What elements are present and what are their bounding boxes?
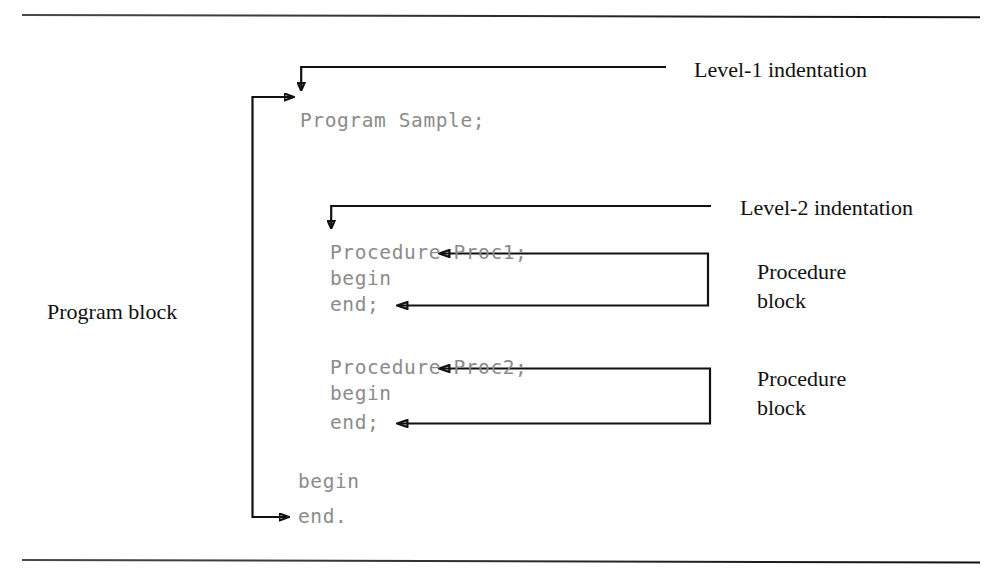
program-block-bracket bbox=[253, 97, 294, 517]
code-line-proc2-end: end; bbox=[330, 413, 379, 433]
code-line-procedure-proc1: Procedure Proc1; bbox=[330, 243, 527, 263]
code-line-program-sample: Program Sample; bbox=[300, 111, 485, 131]
label-procedure-block-2-line2: block bbox=[757, 395, 806, 421]
code-line-procedure-proc2: Procedure Proc2; bbox=[330, 358, 527, 378]
figure-canvas: Program Sample; Procedure Proc1; begin e… bbox=[0, 0, 999, 573]
code-line-proc1-end: end; bbox=[330, 295, 379, 315]
label-procedure-block-1-line1: Procedure bbox=[757, 259, 846, 285]
page-rule-bottom bbox=[22, 559, 980, 564]
code-line-program-begin: begin bbox=[298, 472, 360, 492]
label-program-block: Program block bbox=[47, 299, 177, 325]
code-line-program-end: end. bbox=[298, 507, 347, 527]
label-level2-indentation: Level-2 indentation bbox=[740, 195, 913, 221]
label-procedure-block-2-line1: Procedure bbox=[757, 366, 846, 392]
level2-indentation-arrow bbox=[331, 206, 711, 228]
level1-indentation-arrow bbox=[301, 67, 666, 90]
label-procedure-block-1-line2: block bbox=[757, 288, 806, 314]
connector-overlay bbox=[0, 0, 999, 573]
code-line-proc1-begin: begin bbox=[330, 269, 392, 289]
code-line-proc2-begin: begin bbox=[330, 384, 392, 404]
page-rule-top bbox=[22, 14, 980, 19]
label-level1-indentation: Level-1 indentation bbox=[694, 57, 867, 83]
